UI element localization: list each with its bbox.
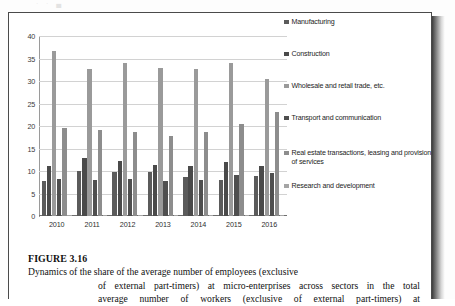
bar (234, 175, 238, 216)
bar (169, 136, 173, 216)
bar (280, 215, 284, 216)
bar (229, 63, 233, 216)
x-axis-labels: 2010201120122013201420152016 (39, 220, 287, 229)
bar (103, 215, 107, 216)
legend-label: Real estate transactions, leasing and pr… (292, 149, 435, 167)
bar-group (252, 36, 287, 216)
page-text-remnant: · · ▄ (36, 0, 156, 8)
x-tick-label: 2016 (252, 220, 287, 229)
bar-group (74, 36, 109, 216)
legend-swatch-icon (284, 116, 289, 121)
bar (209, 215, 213, 216)
legend-swatch-icon (284, 20, 289, 25)
figure-label: FIGURE 3.16 (28, 253, 87, 264)
bar (188, 166, 192, 216)
bar (163, 181, 167, 216)
legend-swatch-icon (284, 184, 289, 189)
bar (42, 181, 46, 216)
y-tick-label: 20 (13, 122, 35, 131)
bar (204, 132, 208, 216)
bar (62, 128, 66, 216)
x-tick-label: 2015 (216, 220, 251, 229)
bar (270, 173, 274, 216)
x-tick-label: 2011 (74, 220, 109, 229)
legend-item[interactable]: Research and development (284, 182, 434, 191)
bar (259, 166, 263, 216)
legend-swatch-icon (284, 151, 289, 156)
y-tick-label: 35 (13, 54, 35, 63)
legend-label: Wholesale and retail trade, etc. (292, 82, 385, 91)
y-tick-label: 0 (13, 212, 35, 221)
legend-label: Transport and communication (292, 114, 382, 123)
bar-groups (39, 36, 287, 216)
bar (239, 124, 243, 216)
bar-group (181, 36, 216, 216)
y-tick-label: 15 (13, 144, 35, 153)
x-tick-label: 2010 (39, 220, 74, 229)
bar (138, 215, 142, 216)
bar (112, 172, 116, 216)
bar (87, 69, 91, 216)
legend-label: Manufacturing (292, 18, 335, 27)
caption-line: average number of workers (exclusive of … (28, 292, 420, 305)
legend-swatch-icon (284, 84, 289, 89)
x-tick-label: 2013 (145, 220, 180, 229)
bar (194, 69, 198, 216)
bar (219, 180, 223, 216)
legend-item[interactable]: Manufacturing (284, 18, 434, 27)
legend-label: Construction (292, 50, 330, 59)
caption-line: Dynamics of the share of the average num… (28, 265, 420, 278)
bar-group (145, 36, 180, 216)
bar (245, 215, 249, 216)
y-tick-label: 40 (13, 32, 35, 41)
legend-item[interactable]: Construction (284, 50, 434, 59)
figure-caption-text: Dynamics of the share of the average num… (28, 265, 420, 305)
bar (158, 68, 162, 217)
bar (52, 51, 56, 216)
chart-legend: ManufacturingConstructionWholesale and r… (284, 14, 434, 196)
bar (133, 132, 137, 216)
bar-group (39, 36, 74, 216)
y-tick-label: 30 (13, 77, 35, 86)
bar (47, 166, 51, 216)
bar (128, 179, 132, 216)
caption-line: of external part-timers) at micro-enterp… (28, 279, 420, 292)
bar (98, 130, 102, 216)
legend-label: Research and development (292, 182, 375, 191)
bar (174, 215, 178, 216)
bar (118, 161, 122, 216)
legend-swatch-icon (284, 52, 289, 57)
y-tick-label: 5 (13, 189, 35, 198)
legend-item[interactable]: Transport and communication (284, 114, 434, 123)
bar (93, 180, 97, 216)
bar (275, 112, 279, 216)
bar (77, 171, 81, 216)
y-tick-label: 10 (13, 167, 35, 176)
legend-item[interactable]: Real estate transactions, leasing and pr… (284, 149, 434, 167)
legend-item[interactable]: Wholesale and retail trade, etc. (284, 82, 434, 91)
bar (153, 165, 157, 216)
bar-group (216, 36, 251, 216)
bar (123, 63, 127, 216)
bar (57, 179, 61, 216)
x-tick-label: 2014 (181, 220, 216, 229)
y-tick-label: 25 (13, 99, 35, 108)
bar (67, 215, 71, 216)
bar (199, 180, 203, 216)
bar-group (110, 36, 145, 216)
bar (82, 158, 86, 217)
x-tick-label: 2012 (110, 220, 145, 229)
bar (183, 177, 187, 216)
bar (148, 172, 152, 216)
bar (224, 162, 228, 216)
bar (254, 176, 258, 217)
bar (265, 79, 269, 216)
figure-caption: FIGURE 3.16 Dynamics of the share of the… (28, 252, 420, 306)
